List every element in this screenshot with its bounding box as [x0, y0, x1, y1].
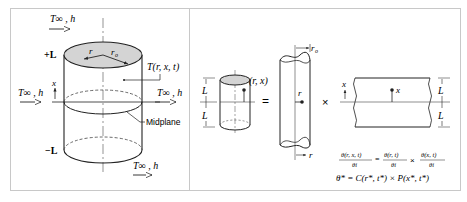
- svg-text:θi: θi: [352, 161, 357, 168]
- plus-L-label: +L: [44, 49, 57, 60]
- svg-text:θi: θi: [391, 161, 396, 168]
- times-sign: ×: [322, 96, 328, 108]
- infinite-cylinder-ro-subscript: o: [315, 48, 318, 54]
- L-lower-label: L: [201, 110, 208, 121]
- r-axis-label: r: [309, 150, 313, 160]
- wall-x-axis-label: x: [341, 79, 346, 89]
- ro-subscript: o: [115, 52, 118, 58]
- svg-text:×: ×: [410, 156, 415, 165]
- svg-text:θ(x, t): θ(x, t): [421, 151, 436, 159]
- minus-L-label: −L: [45, 145, 58, 156]
- convection-label-left: T∞ , h: [18, 87, 43, 98]
- convection-label-right: T∞ , h: [157, 87, 182, 98]
- svg-text:θi: θi: [429, 161, 434, 168]
- wall-L-lower-label: L: [437, 110, 444, 121]
- wall-L-upper-label: L: [437, 85, 444, 96]
- x-axis-label: x: [51, 78, 56, 88]
- figure-canvas: T∞ , h T∞ , h T∞ , h T∞ , h +L −L r r o …: [0, 0, 467, 202]
- temperature-label: T(r, x, t): [147, 61, 180, 73]
- svg-text:=: =: [375, 155, 380, 164]
- svg-text:θ* = C(r*, t*) × P(x*, t*): θ* = C(r*, t*) × P(x*, t*): [336, 173, 429, 183]
- convection-label-top: T∞ , h: [50, 13, 75, 24]
- product-solution-equation: θ(r, x, t) θi = θ(r, t) θi × θ(x, t) θi …: [336, 151, 445, 183]
- convection-label-bottom: T∞ , h: [133, 160, 158, 171]
- L-upper-label: L: [201, 85, 208, 96]
- r-label: r: [89, 46, 93, 56]
- midplane-label: Midplane: [146, 117, 181, 127]
- equals-sign: =: [262, 94, 269, 108]
- r-point-label: r: [298, 88, 302, 98]
- svg-text:θ(r, t): θ(r, t): [384, 151, 398, 159]
- wall-x-point-label: x: [395, 85, 400, 95]
- svg-text:θ(r, x, t): θ(r, x, t): [341, 151, 362, 159]
- point-label: (r, x): [249, 75, 269, 87]
